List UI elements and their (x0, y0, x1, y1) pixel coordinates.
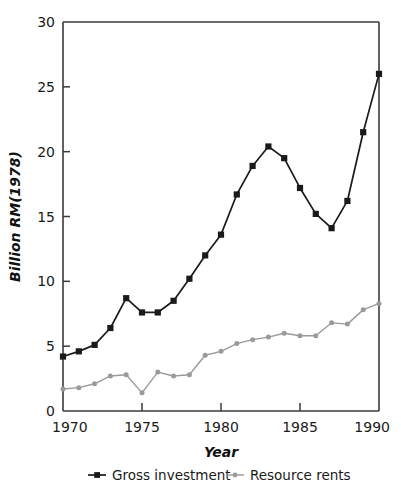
data-point (186, 276, 192, 282)
data-point (377, 301, 382, 306)
series-line-0 (63, 74, 379, 357)
series-line-1 (63, 303, 379, 392)
data-point (203, 353, 208, 358)
x-tick-label: 1970 (52, 419, 88, 435)
y-tick-label: 20 (37, 144, 55, 160)
data-point (329, 320, 334, 325)
data-point (171, 298, 177, 304)
data-point (344, 198, 350, 204)
data-point (155, 370, 160, 375)
data-point (202, 252, 208, 258)
data-point (92, 342, 98, 348)
data-point (250, 163, 256, 169)
legend-marker-0 (94, 472, 100, 478)
data-point (361, 307, 366, 312)
y-axis-title: Billion RM(1978) (7, 151, 23, 282)
x-tick-label: 1975 (124, 419, 160, 435)
y-tick-label: 15 (37, 209, 55, 225)
x-tick-label: 1990 (354, 419, 390, 435)
data-point (376, 71, 382, 77)
y-tick-label: 0 (46, 403, 55, 419)
data-point (234, 341, 239, 346)
data-point (250, 337, 255, 342)
data-point (234, 191, 240, 197)
data-point (139, 309, 145, 315)
chart-figure: 05101520253019701975198019851990Billion … (0, 0, 401, 483)
x-axis-title: Year (204, 444, 239, 460)
y-tick-label: 5 (46, 338, 55, 354)
data-point (123, 295, 129, 301)
data-point (360, 129, 366, 135)
data-point (107, 325, 113, 331)
data-point (218, 232, 224, 238)
data-point (281, 155, 287, 161)
data-point (140, 390, 145, 395)
data-point (219, 349, 224, 354)
y-tick-label: 30 (37, 14, 55, 30)
data-point (76, 385, 81, 390)
legend-label-1: Resource rents (250, 467, 351, 483)
data-point (345, 322, 350, 327)
data-point (329, 225, 335, 231)
data-point (313, 211, 319, 217)
data-point (298, 333, 303, 338)
data-point (187, 372, 192, 377)
y-tick-label: 25 (37, 79, 55, 95)
data-point (171, 373, 176, 378)
data-point (76, 348, 82, 354)
line-chart: 05101520253019701975198019851990Billion … (0, 0, 401, 483)
data-point (108, 373, 113, 378)
data-point (60, 353, 66, 359)
x-tick-label: 1980 (203, 419, 239, 435)
legend-marker-1 (233, 473, 238, 478)
data-point (313, 333, 318, 338)
data-point (61, 386, 66, 391)
legend-label-0: Gross investment (112, 467, 231, 483)
data-point (92, 381, 97, 386)
data-point (265, 143, 271, 149)
data-point (297, 185, 303, 191)
x-tick-label: 1985 (282, 419, 318, 435)
y-tick-label: 10 (37, 273, 55, 289)
data-point (282, 331, 287, 336)
data-point (155, 309, 161, 315)
data-point (266, 335, 271, 340)
data-point (124, 372, 129, 377)
